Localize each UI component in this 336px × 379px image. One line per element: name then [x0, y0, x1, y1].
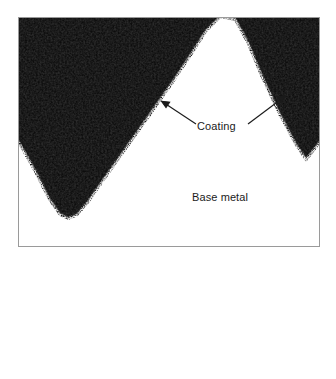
micrograph-image — [0, 0, 336, 379]
base-metal-label: Base metal — [192, 191, 248, 203]
coating-label: Coating — [197, 120, 236, 132]
micrograph-frame — [18, 17, 320, 247]
micrograph-figure: Coating Base metal — [0, 0, 336, 379]
